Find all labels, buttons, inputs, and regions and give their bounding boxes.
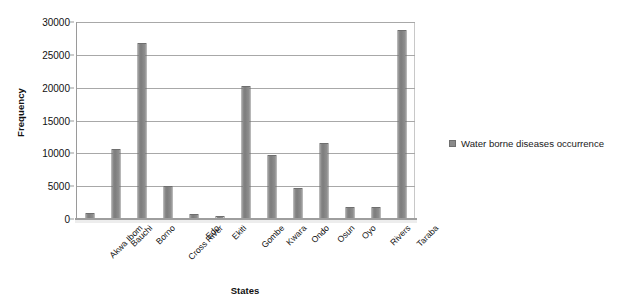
x-axis-tick-label: Ekiti xyxy=(230,223,249,242)
x-axis-tick-label: Taraba xyxy=(415,223,441,249)
x-axis-tick-label-group: Akwa IbomBauchiBornoCross RiverEdoEkitiG… xyxy=(76,219,414,281)
bar-slot xyxy=(129,22,155,219)
bar-chart-figure: Frequency 050001000015000200002500030000… xyxy=(0,0,632,307)
legend-item-label: Water borne diseases occurrence xyxy=(461,138,604,149)
legend-color-swatch xyxy=(449,140,456,147)
y-axis-tick-label: 5000 xyxy=(48,181,70,192)
y-axis-tick-label: 30000 xyxy=(42,17,70,28)
x-axis-tick-label: Borno xyxy=(154,223,177,246)
plot-area xyxy=(76,22,415,219)
y-axis-tick-mark xyxy=(70,219,74,220)
bar[interactable] xyxy=(138,43,147,219)
bar-slot xyxy=(155,22,181,219)
bar-slot xyxy=(77,22,103,219)
bar[interactable] xyxy=(164,186,173,219)
y-axis-tick-mark xyxy=(70,22,74,23)
y-axis-tick-mark xyxy=(70,120,74,121)
y-axis-tick-label: 25000 xyxy=(42,49,70,60)
chart-legend: Water borne diseases occurrence xyxy=(449,138,604,149)
bar-slot xyxy=(389,22,415,219)
y-axis-tick-label-group: 050001000015000200002500030000 xyxy=(30,16,74,222)
bar-slot xyxy=(207,22,233,219)
y-axis-tick-mark xyxy=(70,54,74,55)
bar[interactable] xyxy=(398,30,407,219)
y-axis-tick-label: 20000 xyxy=(42,82,70,93)
bar-slot xyxy=(311,22,337,219)
y-axis-title-text: Frequency xyxy=(15,88,26,137)
x-axis-title: States xyxy=(76,285,414,296)
x-axis-tick-label: Oyo xyxy=(360,223,378,241)
bar-slot xyxy=(233,22,259,219)
y-axis-tick-mark xyxy=(70,186,74,187)
bar[interactable] xyxy=(112,149,121,219)
y-axis-tick-label: 10000 xyxy=(42,148,70,159)
bar-slot xyxy=(363,22,389,219)
bar-slot xyxy=(285,22,311,219)
x-axis-tick-label: Osun xyxy=(335,223,357,245)
x-axis-tick-label: Rivers xyxy=(388,223,412,247)
bar[interactable] xyxy=(294,188,303,219)
y-axis-tick-label: 15000 xyxy=(42,115,70,126)
x-axis-tick-label: Gombe xyxy=(259,223,286,250)
y-axis-tick-mark xyxy=(70,87,74,88)
bar-slot xyxy=(337,22,363,219)
bars-layer xyxy=(77,22,415,219)
y-axis-tick-mark xyxy=(70,153,74,154)
x-axis-tick-label: Kwara xyxy=(284,223,308,247)
bar-slot xyxy=(259,22,285,219)
bar[interactable] xyxy=(242,86,251,219)
bar-slot xyxy=(103,22,129,219)
bar[interactable] xyxy=(320,143,329,219)
x-axis-tick-label: Ondo xyxy=(309,223,331,245)
bar-slot xyxy=(181,22,207,219)
bar[interactable] xyxy=(268,155,277,219)
